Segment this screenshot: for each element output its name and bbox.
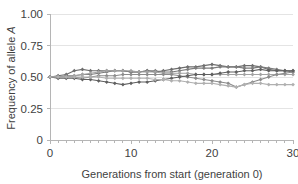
- allele-frequency-line-chart: 00.250.500.751.00 0102030 Generations fr…: [0, 0, 298, 184]
- data-point-marker: [234, 65, 238, 69]
- data-point-marker: [291, 83, 295, 87]
- data-point-marker: [89, 75, 93, 79]
- data-point-marker: [210, 66, 214, 70]
- x-tick-labels-group: 0102030: [47, 147, 298, 159]
- data-point-marker: [226, 70, 230, 74]
- data-point-marker: [259, 73, 263, 77]
- data-point-marker: [226, 65, 230, 69]
- data-point-marker: [210, 81, 214, 85]
- data-point-marker: [210, 63, 214, 67]
- data-point-marker: [72, 69, 76, 73]
- data-point-marker: [243, 69, 247, 73]
- data-point-marker: [137, 80, 141, 84]
- x-tick-label: 10: [125, 147, 138, 159]
- x-axis-title: Generations from start (generation 0): [82, 168, 263, 180]
- data-point-marker: [234, 85, 238, 89]
- data-point-marker: [259, 78, 263, 82]
- data-point-marker: [121, 83, 125, 87]
- y-tick-label: 0: [37, 134, 43, 146]
- data-point-marker: [113, 81, 117, 85]
- data-point-marker: [129, 73, 133, 77]
- data-point-marker: [259, 81, 263, 85]
- data-point-marker: [105, 80, 109, 84]
- data-point-marker: [243, 83, 247, 87]
- data-point-marker: [259, 68, 263, 72]
- data-point-marker: [186, 68, 190, 72]
- y-axis-title-text: Frequency of allele A: [5, 26, 17, 129]
- data-point-marker: [267, 83, 271, 87]
- data-point-marker: [202, 81, 206, 85]
- y-tick-label: 0.50: [21, 71, 43, 83]
- y-tick-labels-group: 00.250.500.751.00: [21, 8, 43, 146]
- data-point-marker: [275, 73, 279, 77]
- x-tick-label: 20: [206, 147, 219, 159]
- data-point-marker: [137, 73, 141, 77]
- data-point-marker: [267, 75, 271, 79]
- data-point-marker: [194, 81, 198, 85]
- data-point-marker: [251, 73, 255, 77]
- data-point-marker: [113, 69, 117, 73]
- data-point-marker: [194, 73, 198, 77]
- data-point-marker: [153, 73, 157, 77]
- series-layer: [48, 63, 295, 89]
- x-tick-label: 0: [47, 147, 53, 159]
- data-point-marker: [48, 75, 52, 79]
- data-point-marker: [234, 70, 238, 74]
- data-point-marker: [283, 83, 287, 87]
- data-point-marker: [162, 78, 166, 82]
- data-point-marker: [283, 69, 287, 73]
- data-point-marker: [202, 78, 206, 82]
- data-point-marker: [202, 66, 206, 70]
- data-point-marker: [275, 83, 279, 87]
- data-point-marker: [243, 73, 247, 77]
- data-point-marker: [121, 69, 125, 73]
- y-axis-title: Frequency of allele A: [5, 26, 17, 129]
- y-tick-label: 1.00: [21, 8, 43, 20]
- data-point-marker: [145, 80, 149, 84]
- gridlines-group: [50, 14, 293, 109]
- data-point-marker: [210, 73, 214, 77]
- data-point-marker: [121, 73, 125, 77]
- data-point-marker: [186, 80, 190, 84]
- data-point-marker: [170, 79, 174, 83]
- data-point-marker: [218, 83, 222, 87]
- y-tick-label: 0.25: [21, 103, 43, 115]
- data-point-marker: [145, 73, 149, 77]
- y-tick-label: 0.75: [21, 40, 43, 52]
- data-point-marker: [202, 73, 206, 77]
- x-tick-label: 30: [287, 147, 298, 159]
- data-point-marker: [129, 81, 133, 85]
- data-point-marker: [251, 69, 255, 73]
- data-point-marker: [178, 79, 182, 83]
- data-point-marker: [81, 68, 85, 72]
- data-point-marker: [97, 79, 101, 83]
- chart-figure: 00.250.500.751.00 0102030 Generations fr…: [0, 0, 298, 184]
